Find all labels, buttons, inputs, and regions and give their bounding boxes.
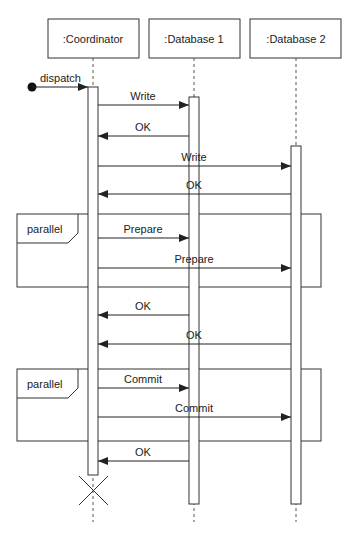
message-label: Commit <box>175 402 213 414</box>
message-label: OK <box>135 121 152 133</box>
lifeline-label: :Database 2 <box>266 33 325 45</box>
fragment-label: parallel <box>27 378 62 390</box>
message-label: Write <box>181 151 206 163</box>
fragment-parallel-2: parallel <box>17 369 321 441</box>
message-labels: Write OK Write OK Prepare Prepare OK OK … <box>123 90 213 458</box>
message-label: Write <box>130 90 155 102</box>
activation-database-2 <box>291 146 301 504</box>
message-label: OK <box>186 329 203 341</box>
lifeline-database-1: :Database 1 <box>149 19 240 58</box>
message-label: OK <box>135 446 152 458</box>
message-label: dispatch <box>40 72 81 84</box>
found-message-dispatch: dispatch <box>28 72 89 92</box>
message-label: Prepare <box>174 253 213 265</box>
message-label: Commit <box>124 373 162 385</box>
lifeline-database-2: :Database 2 <box>250 19 341 58</box>
message-label: Prepare <box>123 223 162 235</box>
activation-coordinator <box>88 87 98 475</box>
sequence-diagram: :Coordinator :Database 1 :Database 2 par… <box>0 0 355 535</box>
lifeline-coordinator: :Coordinator <box>48 19 139 58</box>
lifeline-label: :Coordinator <box>63 33 124 45</box>
message-label: OK <box>135 300 152 312</box>
fragment-parallel-1: parallel <box>17 214 321 287</box>
fragment-label: parallel <box>27 223 62 235</box>
lifeline-label: :Database 1 <box>164 33 223 45</box>
message-label: OK <box>186 179 203 191</box>
